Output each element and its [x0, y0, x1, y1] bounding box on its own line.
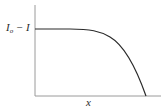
chart: Io − I x	[0, 0, 167, 112]
x-axis-label: x	[86, 96, 91, 108]
chart-canvas	[0, 0, 167, 112]
y-axis-label: Io − I	[6, 21, 30, 37]
data-curve	[35, 29, 146, 96]
